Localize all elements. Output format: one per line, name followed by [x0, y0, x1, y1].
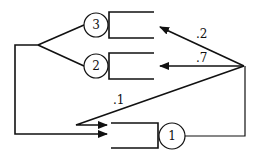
queue-2	[109, 53, 154, 79]
server-1: 1	[159, 123, 185, 149]
queue-3	[109, 12, 154, 38]
server-2: 2	[84, 54, 108, 78]
route-to-2: .7	[160, 51, 244, 66]
fork	[38, 25, 84, 66]
queueing-network-diagram: 3 2 .2 .7 .1 1	[0, 0, 258, 158]
prob-label-1: .1	[113, 93, 124, 107]
prob-label-2: .2	[196, 27, 207, 41]
server-3-label: 3	[92, 18, 100, 32]
server-3: 3	[84, 13, 108, 37]
server-1-label: 1	[168, 129, 176, 143]
prob-label-7: .7	[196, 51, 207, 65]
queue-1	[111, 123, 158, 148]
server-2-label: 2	[92, 59, 100, 73]
